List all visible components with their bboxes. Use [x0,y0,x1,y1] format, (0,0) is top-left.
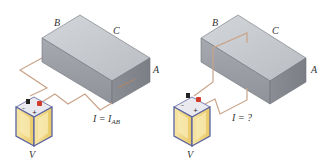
label-corner-c: C [113,25,120,36]
right-panel: – + B C A V I = ? [174,15,318,160]
positive-terminal [196,97,201,102]
label-current: I = ? [231,112,252,123]
label-corner-c: C [272,25,279,36]
positive-terminal [37,101,42,106]
label-voltage: V [29,149,37,160]
svg-text:–: – [181,101,184,108]
label-current: I = IAB [92,113,121,126]
label-corner-a: A [152,64,160,75]
negative-terminal [26,99,30,104]
wire [205,88,247,114]
resistivity-diagram: – + B C A V I = IAB – + [0,0,325,167]
battery: – + [174,93,210,146]
left-panel: – + B C A V I = IAB [16,15,160,160]
battery: – + [16,97,52,146]
wire [20,58,47,96]
label-voltage: V [187,149,195,160]
label-corner-b: B [54,17,60,28]
svg-text:–: – [22,104,25,111]
rectangular-block [201,15,306,104]
label-corner-a: A [310,64,318,75]
svg-text:+: + [193,106,198,113]
svg-text:+: + [32,108,37,115]
rectangular-block [42,15,150,104]
negative-terminal [186,93,190,98]
label-corner-b: B [212,17,218,28]
